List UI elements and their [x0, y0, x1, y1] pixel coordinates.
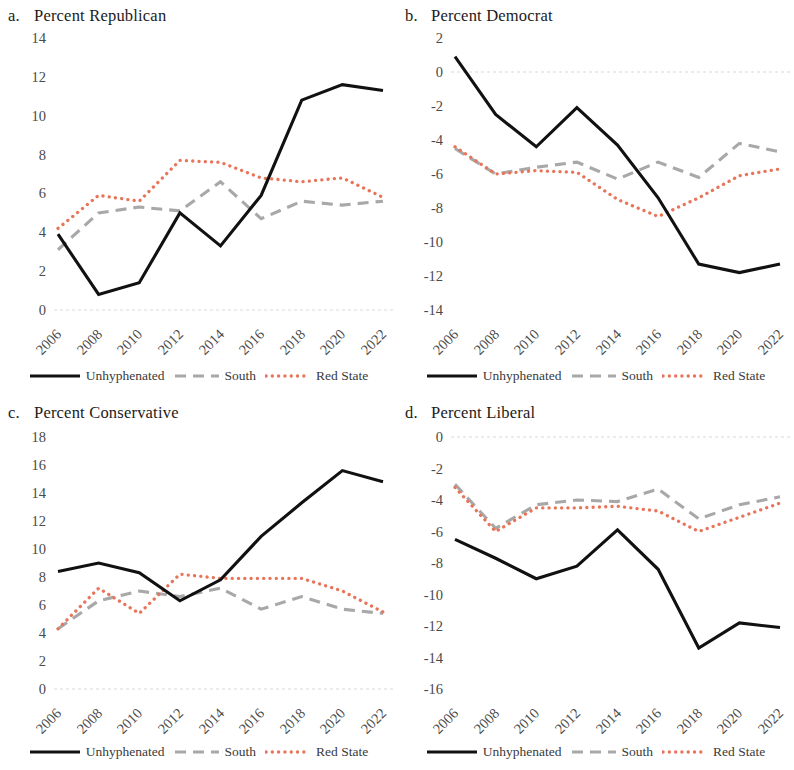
x-axis-tick-label: 2014: [592, 326, 625, 359]
panel-a-title-text: Percent Republican: [34, 6, 166, 25]
panel-c-plot: 024681012141618: [0, 429, 397, 719]
legend-label-red-state: Red State: [713, 368, 765, 384]
legend-swatch-dashed-icon: [174, 747, 220, 757]
series-line-red-state: [58, 160, 383, 228]
legend-swatch-dotted-icon: [265, 747, 311, 757]
x-axis-tick-label: 2006: [429, 705, 462, 738]
x-axis-tick-label: 2018: [673, 326, 706, 359]
legend-item-unhyphenated[interactable]: Unhyphenated: [29, 744, 165, 760]
y-axis-tick-label: -4: [431, 132, 444, 148]
x-axis-tick-label: 2018: [276, 326, 309, 359]
x-axis-tick-label: 2008: [73, 705, 106, 738]
x-axis-tick-label: 2016: [633, 705, 666, 738]
legend-label-south: South: [622, 368, 654, 384]
panel-a: a.Percent Republican 02468101214 2006200…: [0, 0, 397, 397]
x-axis-tick-label: 2012: [154, 705, 187, 738]
legend-item-south[interactable]: South: [174, 744, 257, 760]
x-axis-tick-label: 2020: [714, 326, 747, 359]
y-axis-tick-label: -10: [424, 587, 443, 603]
legend-item-red-state[interactable]: Red State: [265, 368, 368, 384]
y-axis-tick-label: -14: [424, 650, 444, 666]
y-axis-tick-label: 2: [436, 30, 443, 46]
y-axis-tick-label: 2: [39, 263, 46, 279]
series-line-south: [58, 182, 383, 250]
panel-b-title-text: Percent Democrat: [431, 6, 553, 25]
legend-label-unhyphenated: Unhyphenated: [86, 744, 165, 760]
y-axis-tick-label: 8: [39, 147, 46, 163]
y-axis-tick-label: -12: [424, 268, 443, 284]
y-axis-tick-label: 10: [32, 108, 47, 124]
legend-label-south: South: [225, 368, 257, 384]
x-axis-tick-label: 2022: [754, 326, 787, 359]
y-axis-tick-label: 0: [436, 64, 443, 80]
panel-b-letter: b.: [405, 6, 431, 26]
x-axis-tick-label: 2008: [73, 326, 106, 359]
y-axis-tick-label: 6: [39, 185, 46, 201]
y-axis-tick-label: 2: [39, 653, 46, 669]
legend-label-unhyphenated: Unhyphenated: [483, 368, 562, 384]
x-axis-tick-label: 2008: [470, 705, 503, 738]
x-axis-tick-label: 2014: [592, 705, 625, 738]
legend-item-south[interactable]: South: [174, 368, 257, 384]
legend-swatch-dotted-icon: [662, 747, 708, 757]
legend-swatch-solid-icon: [29, 371, 81, 381]
series-line-unhyphenated: [455, 530, 780, 648]
series-line-red-state: [58, 574, 383, 629]
x-axis-tick-label: 2020: [714, 705, 747, 738]
x-axis-tick-label: 2008: [470, 326, 503, 359]
y-axis-tick-label: -12: [424, 618, 443, 634]
legend-label-red-state: Red State: [713, 744, 765, 760]
y-axis-tick-label: 14: [32, 485, 47, 501]
y-axis-tick-label: 18: [32, 429, 47, 445]
y-axis-tick-label: -10: [424, 234, 443, 250]
series-line-red-state: [455, 147, 780, 217]
y-axis-tick-label: 10: [32, 541, 47, 557]
y-axis-tick-label: -14: [424, 302, 444, 318]
x-axis-tick-label: 2006: [32, 705, 65, 738]
legend-label-red-state: Red State: [316, 744, 368, 760]
series-line-south: [58, 588, 383, 629]
panel-a-legend: UnhyphenatedSouthRed State: [0, 368, 397, 384]
x-axis-tick-label: 2010: [114, 705, 147, 738]
y-axis-tick-label: 0: [436, 429, 443, 445]
panel-c-title: c.Percent Conservative: [8, 403, 179, 423]
x-axis-tick-label: 2016: [236, 326, 269, 359]
legend-swatch-dotted-icon: [265, 371, 311, 381]
legend-item-red-state[interactable]: Red State: [265, 744, 368, 760]
legend-item-south[interactable]: South: [571, 368, 654, 384]
panel-c: c.Percent Conservative 024681012141618 2…: [0, 397, 397, 770]
y-axis-tick-label: 4: [39, 224, 47, 240]
x-axis-tick-label: 2018: [673, 705, 706, 738]
series-line-red-state: [455, 487, 780, 531]
legend-item-unhyphenated[interactable]: Unhyphenated: [29, 368, 165, 384]
legend-swatch-solid-icon: [426, 371, 478, 381]
series-line-unhyphenated: [455, 57, 780, 273]
x-axis-tick-label: 2022: [754, 705, 787, 738]
y-axis-tick-label: -6: [431, 166, 443, 182]
legend-item-red-state[interactable]: Red State: [662, 744, 765, 760]
legend-label-unhyphenated: Unhyphenated: [483, 744, 562, 760]
y-axis-tick-label: 0: [39, 302, 46, 318]
legend-swatch-solid-icon: [426, 747, 478, 757]
x-axis-tick-label: 2016: [633, 326, 666, 359]
legend-item-unhyphenated[interactable]: Unhyphenated: [426, 744, 562, 760]
panel-a-plot: 02468101214: [0, 30, 397, 320]
y-axis-tick-label: 8: [39, 569, 46, 585]
series-line-unhyphenated: [58, 85, 383, 295]
legend-label-unhyphenated: Unhyphenated: [86, 368, 165, 384]
legend-label-south: South: [225, 744, 257, 760]
y-axis-tick-label: 0: [39, 681, 46, 697]
y-axis-tick-label: 12: [32, 513, 47, 529]
panel-b: b.Percent Democrat 20-2-4-6-8-10-12-14 2…: [397, 0, 794, 397]
legend-item-unhyphenated[interactable]: Unhyphenated: [426, 368, 562, 384]
legend-swatch-dashed-icon: [174, 371, 220, 381]
x-axis-tick-label: 2006: [32, 326, 65, 359]
y-axis-tick-label: 4: [39, 625, 47, 641]
x-axis-tick-label: 2012: [551, 705, 584, 738]
panel-d-title-text: Percent Liberal: [431, 403, 535, 422]
panel-a-letter: a.: [8, 6, 34, 26]
x-axis-tick-label: 2010: [511, 326, 544, 359]
legend-item-red-state[interactable]: Red State: [662, 368, 765, 384]
legend-item-south[interactable]: South: [571, 744, 654, 760]
legend-swatch-dashed-icon: [571, 747, 617, 757]
